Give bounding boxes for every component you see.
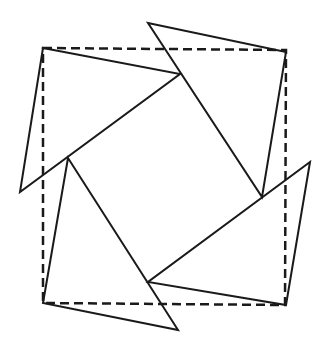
pinwheel-diagram (0, 0, 326, 352)
